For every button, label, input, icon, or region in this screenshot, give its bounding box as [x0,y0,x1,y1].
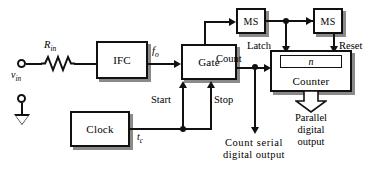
arrowhead-gate-to-ms1 [229,18,236,26]
arrowhead-stop [207,81,215,88]
arrowhead-count-serial [251,127,259,134]
start-label: Start [151,94,171,106]
wire-clock-bus [130,128,212,130]
wire-start [182,88,184,129]
v-in-label: vin [11,69,21,83]
counter-bit-width-box: n [280,55,342,68]
block-ms1[interactable]: MS [236,8,266,34]
r-in-label: Rin [44,39,56,54]
block-clock-label: Clock [86,123,113,135]
block-ifc-label: IFC [113,54,131,66]
block-ms2-label: MS [321,16,336,27]
wire-resistor-to-ifc [74,63,96,65]
count-serial-output-line2: digital output [196,149,312,161]
circuit-block-diagram: vin Rin IFC fo Gate MS Latch MS [0,0,372,172]
wire-stop [210,88,212,129]
wire-ifc-to-gate [148,63,176,65]
wire-gate-top-riser [204,22,206,44]
t-c-label: tc [137,131,143,145]
parallel-output-label: Parallel digital output [273,112,349,147]
wire-gate-to-ms1 [204,21,231,23]
block-ms1-label: MS [244,16,259,27]
latch-label: Latch [247,40,271,52]
resistor-r-in [41,53,75,77]
arrowhead-ifc-to-gate [174,60,181,68]
count-label: Count [216,53,242,65]
ground-triangle-inner [16,116,28,124]
wire-latch-down [285,21,287,48]
arrowhead-start [179,81,187,88]
wire-count-serial [254,67,256,129]
parallel-output-line1: Parallel [273,112,349,124]
wire-terminal-to-resistor [26,63,42,65]
block-ifc[interactable]: IFC [96,41,148,79]
counter-bit-width-label: n [309,56,314,67]
block-counter-label: Counter [293,75,330,87]
block-ms2[interactable]: MS [313,8,343,34]
block-clock[interactable]: Clock [70,111,130,147]
input-terminal [17,59,26,68]
f-o-label: fo [152,45,159,60]
ground-terminal [17,94,26,103]
stop-label: Stop [214,94,233,106]
parallel-output-line2: digital [273,124,349,136]
arrowhead-to-ms2 [306,17,313,25]
parallel-output-line3: output [273,136,349,148]
